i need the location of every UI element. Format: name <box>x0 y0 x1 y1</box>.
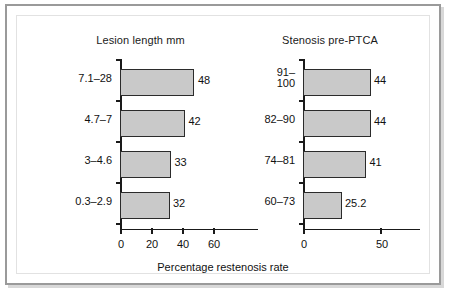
x-axis-tick-label: 0 <box>301 238 307 250</box>
chart-title-right: Stenosis pre-PTCA <box>235 34 425 46</box>
category-label: 74–81 <box>245 155 295 166</box>
plot-area-right: 91– 100 44 82–90 44 74–81 41 <box>303 62 385 227</box>
bar[interactable] <box>120 192 170 219</box>
x-axis-tick <box>380 228 382 234</box>
x-axis-tick-label: 50 <box>376 238 388 250</box>
x-axis-tick <box>182 228 184 234</box>
bar-value-label: 32 <box>173 197 185 209</box>
chart-title-left: Lesion length mm <box>33 34 248 46</box>
y-axis-tick <box>116 59 121 61</box>
figure-frame: Lesion length mm 7.1–28 48 4.7– <box>5 4 441 285</box>
bar[interactable] <box>303 192 342 219</box>
bar-value-label: 44 <box>374 115 386 127</box>
category-label: 7.1–28 <box>30 73 112 84</box>
chart-panel-lesion-length: Lesion length mm 7.1–28 48 4.7– <box>25 16 240 246</box>
x-axis-tick-label: 40 <box>177 238 189 250</box>
y-axis-tick <box>299 141 304 143</box>
x-axis-line-left <box>120 229 258 231</box>
bar[interactable] <box>120 151 171 178</box>
x-axis-line-right <box>303 229 420 231</box>
bar[interactable] <box>303 151 366 178</box>
bar[interactable] <box>303 69 371 96</box>
bar-value-label: 48 <box>198 74 210 86</box>
x-axis-tick <box>151 228 153 234</box>
x-axis-title: Percentage restenosis rate <box>17 261 429 273</box>
y-axis-tick <box>116 141 121 143</box>
y-axis-tick <box>116 223 121 225</box>
category-label: 82–90 <box>245 114 295 125</box>
x-axis-tick <box>120 228 122 234</box>
category-label-line2: 100 <box>245 78 295 89</box>
x-axis-tick-label: 60 <box>208 238 220 250</box>
bar-value-label: 41 <box>370 156 382 168</box>
figure-inner-border: Lesion length mm 7.1–28 48 4.7– <box>16 15 430 274</box>
plot-area-left: 7.1–28 48 4.7–7 42 3–4.6 33 <box>120 62 220 227</box>
y-axis-tick <box>116 100 121 102</box>
y-axis-tick <box>116 182 121 184</box>
category-label: 4.7–7 <box>30 114 112 125</box>
category-label: 0.3–2.9 <box>30 196 112 207</box>
bar[interactable] <box>120 110 185 137</box>
y-axis-tick <box>299 223 304 225</box>
category-label: 60–73 <box>245 196 295 207</box>
category-label: 91– 100 <box>245 67 295 89</box>
x-axis-tick-label: 0 <box>118 238 124 250</box>
bar[interactable] <box>303 110 371 137</box>
chart-panel-stenosis-pre-ptca: Stenosis pre-PTCA 91– 100 44 <box>239 16 429 246</box>
bar-value-label: 42 <box>189 115 201 127</box>
category-label: 3–4.6 <box>30 155 112 166</box>
bar-value-label: 25.2 <box>345 197 366 209</box>
bar[interactable] <box>120 69 194 96</box>
x-axis-tick <box>303 228 305 234</box>
x-axis-tick <box>213 228 215 234</box>
y-axis-tick <box>299 59 304 61</box>
y-axis-tick <box>299 182 304 184</box>
bar-value-label: 44 <box>374 74 386 86</box>
x-axis-tick-label: 20 <box>146 238 158 250</box>
y-axis-tick <box>299 100 304 102</box>
bar-value-label: 33 <box>175 156 187 168</box>
